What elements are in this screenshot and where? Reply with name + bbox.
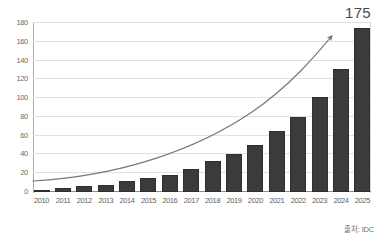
y-tick-label: 0 — [0, 187, 28, 196]
bar-2011 — [55, 188, 71, 192]
x-tick-label-2023: 2023 — [311, 195, 328, 209]
bar-2014 — [119, 181, 135, 192]
y-tick-label: 140 — [0, 56, 28, 65]
x-tick-label-2019: 2019 — [226, 195, 243, 209]
x-tick-label-2021: 2021 — [268, 195, 285, 209]
bar-slot — [76, 23, 93, 192]
y-tick-label: 80 — [0, 112, 28, 121]
source-note: 출처: IDC — [344, 223, 374, 234]
bar-2018 — [205, 161, 221, 192]
bar-slot — [33, 23, 50, 192]
bar-2017 — [183, 169, 199, 192]
x-axis-labels: 2010201120122013201420152016201720182019… — [33, 195, 371, 209]
bar-slot — [119, 23, 136, 192]
y-tick-label: 100 — [0, 93, 28, 102]
bar-slot — [204, 23, 221, 192]
bar-2013 — [98, 185, 114, 193]
x-tick-label-2022: 2022 — [290, 195, 307, 209]
bar-2025 — [354, 28, 370, 192]
x-tick-label-2012: 2012 — [76, 195, 93, 209]
x-tick-label-2020: 2020 — [247, 195, 264, 209]
bar-slot — [247, 23, 264, 192]
x-tick-label-2018: 2018 — [204, 195, 221, 209]
y-tick-label: 120 — [0, 74, 28, 83]
x-tick-label-2015: 2015 — [140, 195, 157, 209]
bar-slot — [332, 23, 349, 192]
bar-slot — [140, 23, 157, 192]
x-tick-label-2016: 2016 — [161, 195, 178, 209]
bar-slot — [226, 23, 243, 192]
bar-2016 — [162, 175, 178, 192]
bar-2023 — [312, 97, 328, 192]
bar-slot — [268, 23, 285, 192]
chart-container: 020406080100120140160180 201020112012201… — [0, 0, 383, 239]
x-tick-label-2011: 2011 — [54, 195, 71, 209]
peak-value-label: 175 — [345, 4, 371, 21]
x-tick-label-2014: 2014 — [119, 195, 136, 209]
bar-slot — [290, 23, 307, 192]
plot-area: 020406080100120140160180 — [33, 23, 371, 192]
bar-2021 — [269, 131, 285, 192]
bar-2010 — [34, 190, 50, 192]
bar-2020 — [247, 145, 263, 192]
x-tick-label-2010: 2010 — [33, 195, 50, 209]
bar-slot — [97, 23, 114, 192]
bar-series — [33, 23, 371, 192]
bar-slot — [161, 23, 178, 192]
y-tick-label: 160 — [0, 37, 28, 46]
bar-2024 — [333, 69, 349, 192]
bar-2012 — [76, 186, 92, 192]
bar-slot — [183, 23, 200, 192]
bar-2015 — [140, 178, 156, 192]
y-tick-label: 20 — [0, 168, 28, 177]
bar-2019 — [226, 154, 242, 192]
bar-slot — [54, 23, 71, 192]
x-tick-label-2017: 2017 — [183, 195, 200, 209]
bar-slot — [311, 23, 328, 192]
bar-2022 — [290, 117, 306, 192]
x-tick-label-2013: 2013 — [97, 195, 114, 209]
x-tick-label-2025: 2025 — [354, 195, 371, 209]
x-tick-label-2024: 2024 — [332, 195, 349, 209]
y-tick-label: 60 — [0, 131, 28, 140]
y-tick-label: 40 — [0, 149, 28, 158]
y-tick-label: 180 — [0, 18, 28, 27]
bar-slot — [354, 23, 371, 192]
